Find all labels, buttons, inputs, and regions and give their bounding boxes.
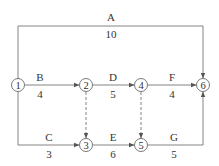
activity-g: G 5 (148, 92, 203, 160)
activity-a-duration: 10 (106, 28, 118, 40)
activity-e-name: E (110, 131, 117, 143)
node-6: 6 (197, 79, 210, 92)
activity-d-name: D (109, 71, 117, 83)
network-diagram: A 10 B 4 C 3 D 5 E 6 F 4 G 5 (0, 0, 219, 166)
activity-g-name: G (170, 131, 178, 143)
node-4-label: 4 (138, 80, 144, 91)
activity-a: A 10 (18, 11, 203, 79)
node-4: 4 (135, 79, 148, 92)
node-2: 2 (80, 79, 93, 92)
node-3-label: 3 (83, 140, 88, 151)
activity-b: B 4 (25, 71, 79, 100)
node-3: 3 (80, 139, 93, 152)
activity-f-duration: 4 (169, 88, 175, 100)
activity-d-duration: 5 (110, 88, 116, 100)
node-1: 1 (12, 79, 25, 92)
activity-f-name: F (169, 71, 175, 83)
node-6-label: 6 (200, 80, 205, 91)
activity-c-duration: 3 (46, 148, 52, 160)
activity-b-name: B (36, 71, 43, 83)
node-5-label: 5 (138, 140, 143, 151)
activity-a-name: A (107, 11, 115, 23)
node-5: 5 (135, 139, 148, 152)
activity-b-duration: 4 (37, 88, 43, 100)
activity-c-name: C (45, 131, 52, 143)
activity-e-duration: 6 (110, 148, 116, 160)
activity-e: E 6 (93, 131, 134, 160)
activity-f: F 4 (148, 71, 196, 100)
node-1-label: 1 (15, 80, 20, 91)
activity-c: C 3 (18, 92, 79, 160)
activity-g-duration: 5 (171, 148, 177, 160)
node-2-label: 2 (83, 80, 88, 91)
activity-d: D 5 (93, 71, 134, 100)
